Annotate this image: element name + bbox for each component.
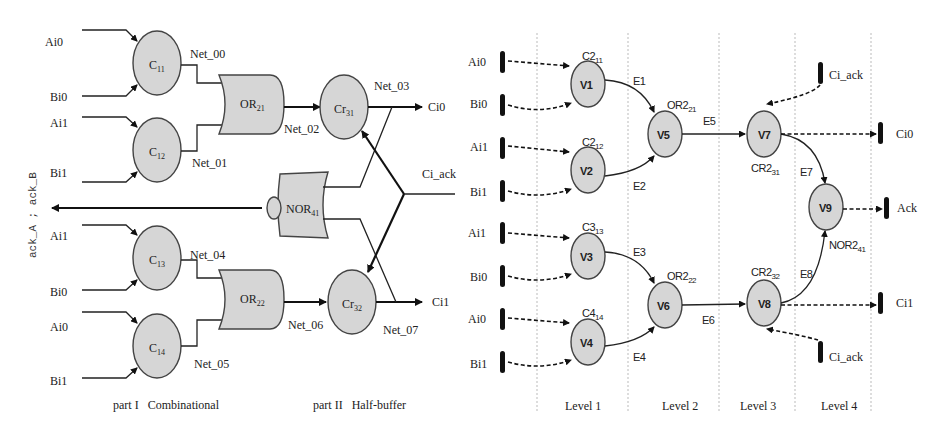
node-v4: V4 C414 [571,307,605,365]
level-label: Level 2 [662,399,698,413]
gate-c13: C13 [133,226,181,290]
input-label: Ai0 [50,320,68,334]
output-ci0: Ci0 [428,100,445,114]
net-label: Net_01 [192,156,227,170]
output-ci0: Ci0 [896,127,913,141]
edge-label: E7 [800,166,813,178]
ack-side-label: ack_A ; ack_B [27,172,39,258]
edge-label: E3 [633,246,646,258]
node-v5: V5 OR221 [648,99,697,157]
svg-text:V2: V2 [580,165,593,177]
level-label: Level 3 [740,399,776,413]
edge-label: E6 [702,314,715,326]
svg-text:OR221: OR221 [667,99,697,114]
svg-text:Bi1: Bi1 [470,185,487,199]
svg-text:V3: V3 [580,251,593,263]
svg-text:Bi0: Bi0 [470,97,487,111]
gate-cr32: Cr32 [328,270,376,334]
input-label: Ai0 [45,35,63,49]
svg-text:Bi0: Bi0 [470,270,487,284]
svg-text:V1: V1 [580,79,593,91]
edge-label: E5 [703,115,716,127]
gate-nor41: NOR41 [267,172,328,238]
node-v6: V6 OR222 [648,270,697,328]
node-v3: V3 C313 [571,221,605,279]
svg-text:CR231: CR231 [751,162,780,177]
input-ci-ack: Ci_ack [422,167,456,181]
svg-text:NOR241: NOR241 [829,239,867,254]
svg-text:V5: V5 [657,129,670,141]
svg-text:V6: V6 [657,300,670,312]
net-label: Net_04 [190,248,225,262]
svg-text:Ai1: Ai1 [470,140,488,154]
input-label: Bi0 [50,90,67,104]
output-ci1: Ci1 [896,296,913,310]
node-v1: V1 C211 [571,50,605,107]
gate-or22: OR22 [219,270,284,329]
svg-text:V8: V8 [758,298,771,310]
right-graph: Ai0 Bi0 Ai1 Bi1 Ai1 Bi0 Ai0 Bi1 [468,33,917,413]
net-label: Net_06 [288,318,323,332]
input-ci-ack-top: Ci_ack [829,68,863,82]
node-v8: V8 CR232 [747,266,781,326]
gate-or21: OR21 [219,75,284,134]
left-circuit: ack_A ; ack_B Ai0 Bi0 Ai1 Bi1 Ai1 Bi0 Ai… [27,30,456,412]
level-label: Level 1 [565,399,601,413]
input-label: Ai1 [50,229,68,243]
gate-cr31: Cr31 [320,75,368,139]
circuit-figure: ack_A ; ack_B Ai0 Bi0 Ai1 Bi1 Ai1 Bi0 Ai… [0,0,943,439]
net-label: Net_07 [383,323,418,337]
output-ci1: Ci1 [432,295,449,309]
svg-text:Bi1: Bi1 [470,357,487,371]
edge-label: E2 [633,180,646,192]
net-label: Net_03 [374,79,409,93]
input-ports: Ai0 Bi0 Ai1 Bi1 Ai1 Bi0 Ai0 Bi1 [468,51,505,373]
caption-part2: part II Half-buffer [313,398,406,412]
input-label: Bi1 [50,374,67,388]
net-label: Net_00 [190,47,225,61]
node-v9: V9 NOR241 [809,184,867,254]
net-label: Net_02 [284,122,319,136]
input-label: Bi1 [50,166,67,180]
svg-text:CR232: CR232 [751,266,780,281]
level-label: Level 4 [821,399,857,413]
edge-label: E1 [633,75,646,87]
node-v2: V2 C212 [571,136,605,193]
input-ci-ack-bottom: Ci_ack [829,350,863,364]
svg-text:V7: V7 [758,129,771,141]
svg-text:Ai0: Ai0 [468,312,486,326]
svg-text:Ai1: Ai1 [468,226,486,240]
net-label: Net_05 [194,357,229,371]
input-label: Bi0 [50,285,67,299]
edge-label: E4 [633,351,646,363]
svg-text:OR222: OR222 [667,270,697,285]
node-v7: V7 CR231 [747,111,781,177]
caption-part1: part I Combinational [113,398,220,412]
svg-text:V9: V9 [819,202,832,214]
gate-c12: C12 [133,118,181,182]
gate-c11: C11 [133,31,181,95]
svg-text:V4: V4 [580,337,594,349]
svg-text:Ai0: Ai0 [468,55,486,69]
output-ack: Ack [897,201,917,215]
input-label: Ai1 [50,116,68,130]
gate-c14: C14 [133,314,181,378]
edge-label: E8 [800,268,813,280]
